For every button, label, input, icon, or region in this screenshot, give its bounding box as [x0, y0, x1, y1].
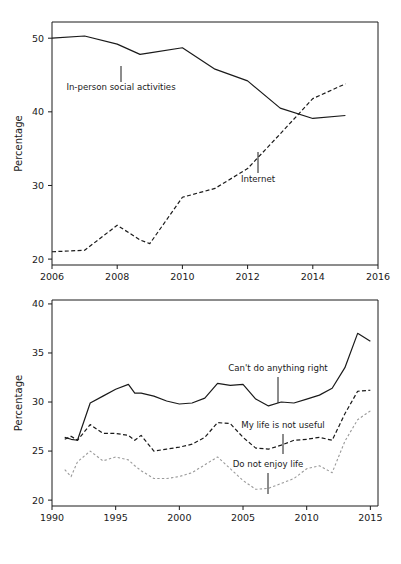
y-tick-label: 40 [32, 106, 44, 117]
x-tick-label: 2015 [358, 512, 382, 523]
x-tick-label: 2010 [170, 271, 194, 282]
y-tick-label: 40 [32, 298, 44, 309]
x-tick-label: 2008 [105, 271, 129, 282]
x-tick-label: 2006 [40, 271, 64, 282]
y-tick-label: 50 [32, 33, 44, 44]
x-tick-label: 2012 [236, 271, 260, 282]
chart-panel-bottom: 2025303540199019952000200520102015Percen… [0, 282, 401, 564]
series-annotation-label: In-person social activities [66, 82, 176, 92]
y-axis-title: Percentage [13, 375, 24, 431]
x-tick-label: 1995 [104, 512, 128, 523]
series-annotation-label: Can't do anything right [228, 363, 328, 373]
y-tick-label: 30 [32, 396, 44, 407]
series-line [52, 84, 345, 252]
figure-container: 20304050200620082010201220142016Percenta… [0, 0, 401, 564]
series-annotation-label: Do not enjoy life [233, 459, 304, 469]
y-tick-label: 25 [32, 445, 44, 456]
line-chart-bottom: 2025303540199019952000200520102015Percen… [0, 282, 401, 564]
y-tick-label: 30 [32, 180, 44, 191]
x-tick-label: 2010 [295, 512, 319, 523]
plot-frame [52, 22, 378, 265]
x-tick-label: 2014 [301, 271, 325, 282]
plot-frame [52, 300, 378, 506]
y-tick-label: 35 [32, 347, 44, 358]
y-axis-title: Percentage [13, 115, 24, 171]
chart-panel-top: 20304050200620082010201220142016Percenta… [0, 0, 401, 282]
x-tick-label: 2000 [167, 512, 191, 523]
series-annotation-label: Internet [241, 174, 276, 184]
x-tick-label: 2016 [366, 271, 390, 282]
y-tick-label: 20 [32, 254, 44, 265]
x-tick-label: 2005 [231, 512, 255, 523]
x-tick-label: 1990 [40, 512, 64, 523]
y-tick-label: 20 [32, 495, 44, 506]
series-line [52, 36, 345, 118]
series-annotation-label: My life is not useful [241, 420, 325, 430]
line-chart-top: 20304050200620082010201220142016Percenta… [0, 0, 401, 282]
